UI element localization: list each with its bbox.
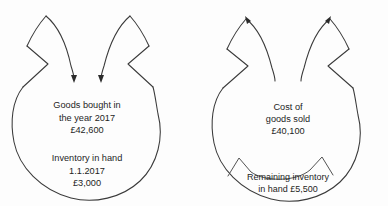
- right-text-line-2: goods sold: [266, 114, 310, 124]
- left-balloon-arrowhead-1-icon: [71, 75, 77, 83]
- left-balloon-outer-right-flare: [130, 16, 149, 46]
- right-balloon-left-chevron-icon: [223, 49, 248, 88]
- left-balloon-inner-right-wall: [101, 16, 130, 79]
- right-balloon-outer-right-flare: [330, 19, 349, 49]
- right-text-line-1: Cost of: [273, 102, 303, 112]
- left-text-line-5: 1.1.2017: [69, 166, 105, 176]
- left-text-line-1: Goods bought in: [53, 100, 120, 110]
- left-text-line-4: Inventory in hand: [52, 153, 123, 163]
- right-balloon-group: Cost of goods sold £40,100 Remaining inv…: [212, 16, 360, 201]
- left-balloon-group: Goods bought in the year 2017 £42,600 In…: [12, 16, 160, 200]
- left-text-amount-opening-inventory: £3,000: [73, 178, 101, 188]
- inventory-flow-diagram: Goods bought in the year 2017 £42,600 In…: [0, 0, 388, 206]
- right-balloon-inner-left-wall: [246, 19, 275, 81]
- right-segment-text-line-2: in hand £5,500: [258, 184, 318, 194]
- left-text-amount-purchases: £42,600: [70, 125, 103, 135]
- left-text-line-2: the year 2017: [59, 113, 115, 123]
- left-balloon-outer-left-flare: [27, 16, 46, 46]
- right-balloon-right-chevron-icon: [328, 49, 353, 88]
- left-balloon-inner-left-wall: [46, 16, 74, 79]
- right-balloon-inner-right-wall: [301, 19, 330, 81]
- right-balloon-outer-left-flare: [227, 19, 246, 49]
- right-text-amount-cogs: £40,100: [271, 126, 304, 136]
- left-balloon-arrowhead-2-icon: [98, 75, 104, 83]
- right-segment-text-line-1: Remaining inventory: [247, 172, 330, 182]
- left-balloon-left-chevron-icon: [23, 46, 48, 87]
- left-balloon-right-chevron-icon: [128, 46, 153, 87]
